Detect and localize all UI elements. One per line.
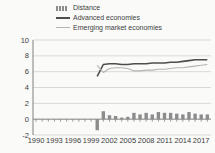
svg-text:2011: 2011: [156, 136, 172, 145]
svg-text:1993: 1993: [46, 136, 63, 145]
x-tick-labels: 1990199319961999200220052008201120142017: [28, 136, 210, 145]
svg-text:1999: 1999: [83, 136, 100, 145]
svg-text:8: 8: [25, 51, 29, 60]
svg-text:2002: 2002: [101, 136, 118, 145]
advanced-line-swatch-icon: [56, 17, 70, 19]
legend-item-emerging: Emerging market economies: [56, 23, 162, 32]
chart: Distance Advanced economies Emerging mar…: [0, 0, 215, 153]
svg-text:2008: 2008: [138, 136, 155, 145]
legend-label-emerging: Emerging market economies: [73, 23, 162, 32]
svg-text:4: 4: [25, 83, 29, 92]
svg-text:2: 2: [25, 99, 29, 108]
svg-text:1996: 1996: [64, 136, 81, 145]
y-tick-labels: -20246810: [21, 36, 29, 140]
bar-series-swatch-icon: [56, 5, 70, 11]
emerging-line-swatch-icon: [56, 27, 70, 28]
svg-text:1990: 1990: [28, 136, 45, 145]
svg-text:2017: 2017: [193, 136, 210, 145]
svg-text:2014: 2014: [175, 136, 192, 145]
svg-text:6: 6: [25, 67, 29, 76]
svg-text:10: 10: [21, 36, 29, 45]
legend: Distance Advanced economies Emerging mar…: [56, 3, 162, 32]
svg-text:0: 0: [25, 115, 29, 124]
legend-item-advanced: Advanced economies: [56, 13, 162, 22]
legend-label-advanced: Advanced economies: [73, 13, 140, 22]
legend-label-distance: Distance: [73, 3, 100, 12]
legend-item-distance: Distance: [56, 3, 162, 12]
svg-text:2005: 2005: [119, 136, 136, 145]
